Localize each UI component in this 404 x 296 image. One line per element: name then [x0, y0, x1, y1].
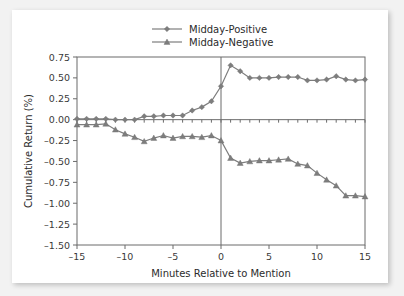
data-point-marker-diamond — [257, 75, 262, 80]
data-point-marker-diamond — [324, 77, 329, 82]
data-point-marker-triangle — [208, 133, 214, 138]
y-tick-label: –1.25 — [44, 219, 70, 230]
data-point-marker-triangle — [295, 161, 301, 166]
data-point-marker-diamond — [353, 78, 358, 83]
y-tick-label: –1.00 — [44, 198, 70, 209]
legend-label: Midday-Positive — [189, 24, 267, 35]
data-point-marker-diamond — [170, 113, 175, 118]
y-tick-label: 0.75 — [49, 52, 70, 63]
y-tick-label: –1.50 — [44, 240, 70, 251]
data-point-marker-diamond — [74, 116, 79, 121]
data-point-marker-diamond — [161, 113, 166, 118]
data-point-marker-diamond — [151, 114, 156, 119]
x-tick-label: 5 — [266, 251, 272, 262]
data-point-marker-diamond — [286, 74, 291, 79]
x-tick-label: –15 — [69, 251, 86, 262]
y-axis-title: Cumulative Return (%) — [23, 94, 34, 208]
data-point-marker-diamond — [142, 114, 147, 119]
chart-legend: Midday-PositiveMidday-Negative — [152, 24, 273, 48]
data-point-marker-diamond — [314, 78, 319, 83]
data-point-marker-diamond — [228, 63, 233, 68]
data-point-marker-diamond — [190, 108, 195, 113]
legend-label: Midday-Negative — [189, 37, 273, 48]
data-point-marker-diamond — [122, 117, 127, 122]
x-tick-label: 15 — [359, 251, 371, 262]
data-point-marker-diamond — [132, 117, 137, 122]
data-point-marker-diamond — [276, 74, 281, 79]
y-tick-label: 0.50 — [49, 72, 70, 83]
data-point-marker-triangle — [228, 155, 234, 160]
data-point-marker-diamond — [113, 117, 118, 122]
y-tick-label: –0.25 — [44, 135, 70, 146]
x-tick-label: –5 — [168, 251, 179, 262]
x-tick-label: 0 — [218, 251, 224, 262]
data-point-marker-triangle — [333, 183, 339, 188]
data-point-marker-triangle — [112, 127, 118, 132]
data-point-marker-diamond — [180, 113, 185, 118]
x-tick-label: –10 — [117, 251, 134, 262]
data-point-marker-triangle — [160, 133, 166, 138]
data-point-marker-diamond — [295, 74, 300, 79]
y-tick-label: 0.25 — [49, 93, 70, 104]
data-point-marker-diamond — [164, 26, 169, 31]
data-point-marker-diamond — [343, 77, 348, 82]
x-tick-label: 10 — [311, 251, 323, 262]
data-point-marker-diamond — [362, 77, 367, 82]
figure-card: 0.750.500.250.00–0.25–0.50–0.75–1.00–1.2… — [12, 10, 388, 283]
y-tick-label: –0.75 — [44, 177, 70, 188]
data-point-marker-diamond — [305, 78, 310, 83]
y-tick-label: –0.50 — [44, 156, 70, 167]
data-point-marker-diamond — [199, 104, 204, 109]
data-point-marker-triangle — [218, 138, 224, 143]
data-point-marker-diamond — [84, 116, 89, 121]
data-point-marker-diamond — [94, 116, 99, 121]
y-tick-label: 0.00 — [49, 114, 70, 125]
data-point-marker-diamond — [266, 75, 271, 80]
data-point-marker-diamond — [334, 74, 339, 79]
cumulative-return-line-chart: 0.750.500.250.00–0.25–0.50–0.75–1.00–1.2… — [12, 10, 388, 283]
x-axis-title: Minutes Relative to Mention — [151, 268, 291, 279]
